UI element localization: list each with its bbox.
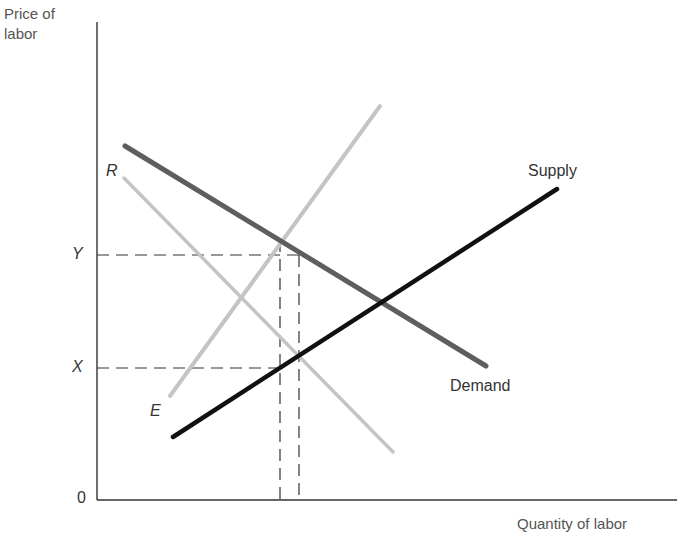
labor-market-diagram (0, 0, 696, 552)
supply-label: Supply (528, 163, 577, 179)
demand-curve (125, 146, 486, 366)
origin-label: 0 (77, 490, 86, 506)
e-line (170, 106, 380, 396)
y-axis-title-line1: Price of (4, 4, 55, 24)
price-level-x-label: X (72, 359, 83, 375)
r-line (124, 178, 393, 452)
price-level-y-label: Y (72, 246, 83, 262)
e-line-label: E (150, 403, 161, 419)
demand-label: Demand (450, 378, 510, 394)
r-line-label: R (106, 163, 118, 179)
x-axis-title: Quantity of labor (517, 514, 627, 534)
y-axis-title: Price of labor (4, 4, 55, 44)
y-axis-title-line2: labor (4, 24, 55, 44)
